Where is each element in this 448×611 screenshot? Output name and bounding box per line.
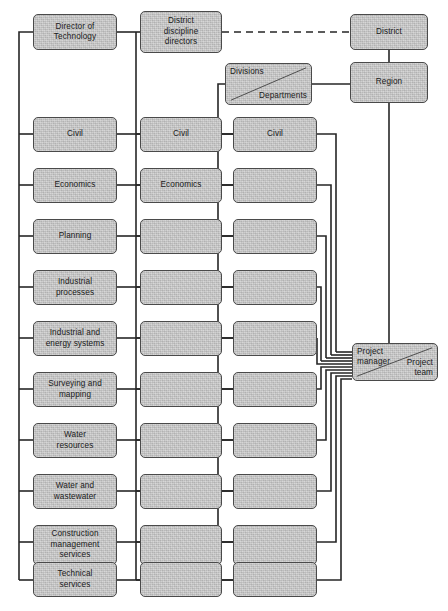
node-label: Civil	[67, 129, 83, 140]
node-project-manager-team[interactable]: Projectmanager Projectteam	[352, 343, 438, 381]
node-district-discipline-row-8[interactable]	[140, 474, 222, 509]
node-district-discipline-row-2[interactable]: Economics	[140, 168, 222, 203]
node-label: Planning	[59, 231, 92, 242]
org-chart: Director ofTechnology Districtdiscipline…	[0, 0, 448, 611]
node-district-discipline-row-10[interactable]	[140, 562, 222, 597]
node-division-department-row-1[interactable]: Civil	[233, 117, 317, 152]
node-label: Technicalservices	[57, 569, 92, 590]
node-director-of-technology[interactable]: Director ofTechnology	[33, 14, 117, 50]
node-label: Region	[376, 77, 403, 88]
node-region[interactable]: Region	[350, 62, 428, 103]
node-discipline-row-1[interactable]: Civil	[33, 117, 117, 152]
node-discipline-row-9[interactable]: Constructionmanagementservices	[33, 525, 117, 565]
node-discipline-row-3[interactable]: Planning	[33, 219, 117, 254]
node-discipline-row-8[interactable]: Water andwastewater	[33, 474, 117, 509]
node-label: Constructionmanagementservices	[51, 529, 100, 561]
node-district-discipline-row-1[interactable]: Civil	[140, 117, 222, 152]
node-label: Water andwastewater	[54, 481, 96, 502]
node-division-department-row-7[interactable]	[233, 423, 317, 458]
node-division-department-row-10[interactable]	[233, 562, 317, 597]
node-division-department-row-5[interactable]	[233, 321, 317, 356]
node-division-department-row-8[interactable]	[233, 474, 317, 509]
node-district-discipline-row-7[interactable]	[140, 423, 222, 458]
node-district-discipline-row-4[interactable]	[140, 270, 222, 305]
node-district-discipline-row-3[interactable]	[140, 219, 222, 254]
node-division-department-row-3[interactable]	[233, 219, 317, 254]
node-district-discipline-row-5[interactable]	[140, 321, 222, 356]
node-label: Industrial andenergy systems	[46, 328, 105, 349]
node-district[interactable]: District	[350, 14, 428, 50]
node-label: Industrialprocesses	[56, 277, 94, 298]
wire-discipline-spine	[19, 32, 33, 580]
node-division-department-row-2[interactable]	[233, 168, 317, 203]
node-label: Civil	[173, 129, 189, 140]
node-label-project-manager: Projectmanager	[357, 347, 390, 368]
node-label: Economics	[161, 180, 202, 191]
node-division-department-row-9[interactable]	[233, 525, 317, 565]
node-division-department-row-4[interactable]	[233, 270, 317, 305]
node-discipline-row-10[interactable]: Technicalservices	[33, 562, 117, 597]
node-discipline-row-5[interactable]: Industrial andenergy systems	[33, 321, 117, 356]
node-label: Economics	[55, 180, 96, 191]
node-discipline-row-6[interactable]: Surveying andmapping	[33, 372, 117, 407]
node-label: Surveying andmapping	[48, 379, 102, 400]
node-label: District	[376, 27, 402, 38]
node-discipline-row-2[interactable]: Economics	[33, 168, 117, 203]
node-label-project-team: Projectteam	[407, 358, 433, 378]
node-label: Civil	[267, 129, 283, 140]
node-discipline-row-4[interactable]: Industrialprocesses	[33, 270, 117, 305]
node-district-discipline-directors[interactable]: Districtdisciplinedirectors	[140, 11, 222, 53]
node-discipline-row-7[interactable]: Waterresources	[33, 423, 117, 458]
node-division-department-row-6[interactable]	[233, 372, 317, 407]
node-district-discipline-row-6[interactable]	[140, 372, 222, 407]
node-label-departments: Departments	[259, 91, 307, 101]
node-divisions-departments[interactable]: Divisions Departments	[225, 63, 312, 105]
node-label: Waterresources	[57, 430, 94, 451]
node-label: Director ofTechnology	[54, 22, 96, 43]
node-label: Districtdisciplinedirectors	[164, 16, 199, 48]
node-district-discipline-row-9[interactable]	[140, 525, 222, 565]
node-label-divisions: Divisions	[230, 67, 264, 77]
